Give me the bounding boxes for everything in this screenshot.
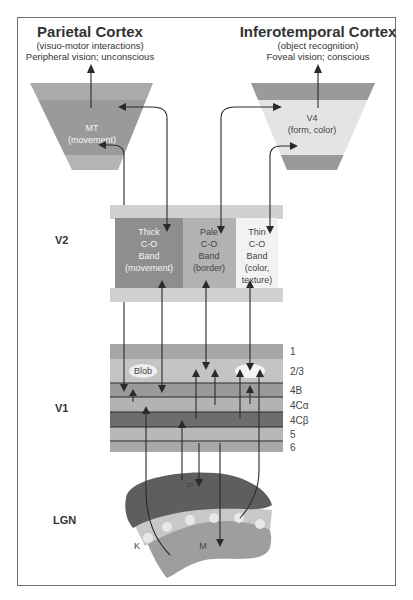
lgn-side-label: LGN (53, 514, 76, 526)
layer-label-1: 1 (290, 346, 296, 357)
area-v4: V4 (form, color) (240, 83, 390, 170)
svg-text:(border): (border) (193, 263, 225, 273)
v2-bottom-bar (110, 288, 283, 302)
v2-side-label: V2 (55, 234, 68, 246)
v2-top-bar (110, 205, 283, 219)
layer-label-4c-alpha: 4Cα (290, 400, 309, 411)
svg-text:Band: Band (138, 251, 159, 261)
lgn-m-label: M (199, 541, 207, 551)
v1-layer-5 (110, 427, 283, 441)
area-mt: MT (movement) (20, 83, 170, 170)
svg-text:C-O: C-O (141, 239, 158, 249)
svg-text:texture): texture) (242, 275, 273, 285)
svg-text:(color,: (color, (245, 263, 270, 273)
svg-text:Thick: Thick (138, 227, 160, 237)
lgn-k-label: K (134, 541, 140, 551)
svg-text:(movement): (movement) (125, 263, 173, 273)
inferotemporal-cortex-description: Foveal vision; conscious (267, 51, 370, 62)
layer-label-5: 5 (290, 429, 296, 440)
svg-text:Pale: Pale (200, 227, 218, 237)
svg-text:Band: Band (198, 251, 219, 261)
parietal-cortex-title-group: Parietal Cortex (visuo-motor interaction… (26, 23, 155, 62)
v4-description: (form, color) (288, 125, 337, 135)
layer-label-4c-beta: 4Cβ (290, 415, 309, 426)
inferotemporal-cortex-subtitle: (object recognition) (278, 40, 359, 51)
svg-text:Thin: Thin (248, 227, 266, 237)
svg-text:Band: Band (246, 251, 267, 261)
visual-pathways-diagram: Parietal Cortex (visuo-motor interaction… (0, 0, 413, 600)
lgn-p-label: P (187, 481, 193, 491)
svg-text:C-O: C-O (201, 239, 218, 249)
v1-layer-1 (110, 344, 283, 359)
inferotemporal-cortex-title: Inferotemporal Cortex (240, 23, 397, 40)
parietal-cortex-subtitle: (visuo-motor interactions) (36, 40, 143, 51)
lgn: P M K (125, 472, 272, 578)
mt-description: (movement) (68, 135, 116, 145)
parietal-cortex-title: Parietal Cortex (37, 23, 144, 40)
blob-label: Blob (134, 366, 152, 376)
layer-label-2-3: 2/3 (290, 366, 304, 377)
inferotemporal-cortex-title-group: Inferotemporal Cortex (object recognitio… (240, 23, 397, 62)
v4-label: V4 (306, 113, 317, 123)
v1-side-label: V1 (55, 402, 68, 414)
layer-label-6: 6 (290, 442, 296, 453)
layer-label-4b: 4B (290, 385, 303, 396)
mt-label: MT (86, 123, 99, 133)
area-v2: Thick C-O Band (movement) Pale C-O Band … (110, 205, 283, 302)
v1-layer-6 (110, 441, 283, 452)
v1-layer-labels: 1 2/3 4B 4Cα 4Cβ 5 6 (290, 346, 309, 453)
svg-text:C-O: C-O (249, 239, 266, 249)
parietal-cortex-description: Peripheral vision; unconscious (26, 51, 155, 62)
